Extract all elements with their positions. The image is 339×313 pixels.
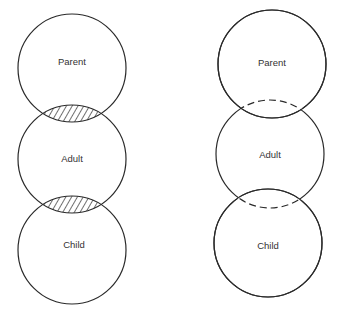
- right-diagram: Parent Adult Child: [214, 10, 326, 297]
- left-diagram: Parent Adult Child: [18, 14, 126, 304]
- right-child-label: Child: [257, 240, 279, 251]
- left-adult-label: Adult: [61, 153, 83, 164]
- right-parent-label: Parent: [258, 57, 286, 68]
- left-parent-label: Parent: [58, 56, 86, 67]
- right-adult-label: Adult: [259, 149, 281, 160]
- left-child-label: Child: [63, 239, 85, 250]
- ego-state-diagram: Parent Adult Child Parent Adult Child: [0, 0, 339, 313]
